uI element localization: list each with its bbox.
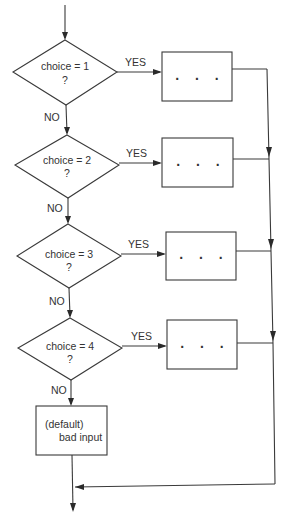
entry-arrow [62,5,68,40]
no-arrow-2: NO [47,198,71,224]
decision-4-question-mark: ? [67,353,73,365]
decision-3: choice = 3 ? [17,224,121,288]
yes-arrow-4: YES [122,330,167,349]
action-box-3: . . . [166,232,236,280]
merge-arrow [75,484,275,490]
action-4-placeholder: . . . [180,335,229,351]
yes-label-3: YES [128,238,149,250]
decision-1-condition: choice = 1 [41,60,89,72]
decision-1: choice = 1 ? [13,40,117,105]
action-1-placeholder: . . . [175,67,224,83]
yes-arrow-2: YES [119,147,162,166]
no-label-1: NO [44,111,60,123]
no-label-3: NO [49,295,65,307]
yes-arrow-3: YES [121,238,166,257]
no-arrow-1: NO [44,105,70,135]
decision-4-condition: choice = 4 [46,340,94,352]
yes-label-1: YES [125,56,146,68]
decision-2: choice = 2 ? [15,135,119,198]
yes-label-2: YES [126,147,147,159]
action-2-placeholder: . . . [176,153,225,169]
no-arrow-4: NO [51,380,74,406]
decision-2-question-mark: ? [64,167,70,179]
flowchart-canvas: choice = 1 ? YES . . . NO choice = 2 ? Y… [0,0,288,514]
decision-3-question-mark: ? [66,261,72,273]
decision-4: choice = 4 ? [18,318,122,380]
action-3-placeholder: . . . [179,246,228,262]
no-arrow-3: NO [49,288,73,318]
yes-label-4: YES [131,330,152,342]
default-label: (default) [45,418,84,430]
yes-arrow-1: YES [117,56,162,75]
decision-3-condition: choice = 3 [45,248,93,260]
action-box-2: . . . [162,138,233,187]
action-box-1: . . . [162,52,232,101]
decision-1-question-mark: ? [62,74,68,86]
bad-input-label: bad input [59,431,102,443]
exit-arrow [70,455,76,512]
no-label-4: NO [51,384,67,396]
decision-2-condition: choice = 2 [43,154,91,166]
default-box: (default) bad input [36,406,107,455]
action-box-4: . . . [167,320,237,369]
collector-line [266,69,276,484]
no-label-2: NO [47,202,63,214]
